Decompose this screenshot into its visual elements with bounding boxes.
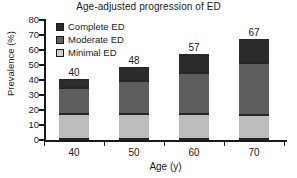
chart-title: Age-adjusted progression of ED [0, 1, 297, 12]
bar-segment-60-complete-ed[interactable] [179, 54, 209, 74]
bar-segment-50-moderate-ed[interactable] [119, 81, 149, 114]
bar-segment-70-moderate-ed[interactable] [239, 63, 269, 116]
legend-label-minimal: Minimal ED [68, 48, 117, 58]
x-axis-label: Age (y) [44, 161, 287, 172]
y-tick-label-60: 60 [17, 45, 39, 55]
bar-segment-70-complete-ed[interactable] [239, 39, 269, 63]
legend-label-complete: Complete ED [68, 22, 125, 32]
bar-70[interactable] [239, 40, 269, 141]
y-tick-label-50: 50 [17, 60, 39, 70]
x-tick-2 [164, 141, 165, 146]
x-tick-0 [44, 141, 45, 146]
legend-swatch-moderate-icon [56, 36, 64, 44]
legend-swatch-minimal-icon [56, 49, 64, 57]
bar-segment-40-complete-ed[interactable] [59, 79, 89, 88]
bar-value-60: 57 [171, 42, 217, 53]
legend-item-minimal[interactable]: Minimal ED [56, 47, 125, 59]
bar-value-70: 67 [231, 27, 277, 38]
legend-item-complete[interactable]: Complete ED [56, 21, 125, 33]
legend-item-moderate[interactable]: Moderate ED [56, 34, 125, 46]
bar-segment-40-moderate-ed[interactable] [59, 88, 89, 114]
x-axis-line [44, 140, 287, 142]
y-tick-label-80: 80 [17, 15, 39, 25]
legend-swatch-complete-icon [56, 23, 64, 31]
y-tick-label-20: 20 [17, 105, 39, 115]
y-tick-label-40: 40 [17, 75, 39, 85]
y-tick-label-70: 70 [17, 30, 39, 40]
chart-figure: Age-adjusted progression of ED Prevalenc… [0, 0, 297, 178]
chart-legend: Complete EDModerate EDMinimal ED [56, 21, 125, 59]
bar-segment-40-minimal-ed[interactable] [59, 114, 89, 140]
bar-value-40: 40 [51, 67, 97, 78]
bar-segment-60-minimal-ed[interactable] [179, 114, 209, 140]
bar-60[interactable] [179, 55, 209, 141]
x-tick-1 [104, 141, 105, 146]
x-tick-label-50: 50 [114, 147, 154, 158]
bar-50[interactable] [119, 68, 149, 140]
x-tick-label-70: 70 [234, 147, 274, 158]
bar-segment-50-complete-ed[interactable] [119, 67, 149, 81]
x-tick-label-60: 60 [174, 147, 214, 158]
bar-40[interactable] [59, 80, 89, 140]
x-tick-4 [284, 141, 285, 146]
bar-segment-50-minimal-ed[interactable] [119, 114, 149, 140]
bar-segment-60-moderate-ed[interactable] [179, 73, 209, 114]
y-tick-label-30: 30 [17, 90, 39, 100]
x-tick-3 [224, 141, 225, 146]
y-tick-label-0: 0 [17, 135, 39, 145]
y-tick-label-10: 10 [17, 120, 39, 130]
x-tick-label-40: 40 [54, 147, 94, 158]
legend-label-moderate: Moderate ED [68, 35, 124, 45]
bar-segment-70-minimal-ed[interactable] [239, 115, 269, 139]
